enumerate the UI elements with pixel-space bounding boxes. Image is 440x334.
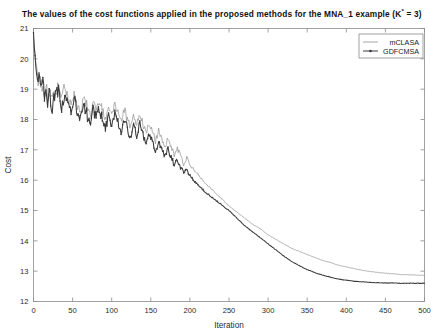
x-tick-label: 150 (144, 306, 157, 315)
y-tick-label: 17 (20, 146, 28, 155)
y-tick-label: 21 (20, 24, 28, 33)
x-tick-label: 300 (262, 306, 275, 315)
x-tick-label: 50 (68, 306, 76, 315)
x-tick-label: 450 (379, 306, 392, 315)
y-tick-label: 16 (20, 176, 28, 185)
legend-marker-gdfcmsa (369, 50, 372, 53)
y-tick-label: 19 (20, 85, 28, 94)
y-tick-label: 13 (20, 267, 28, 276)
y-tick-label: 18 (20, 115, 28, 124)
y-axis-label: Cost (4, 156, 13, 174)
y-tick-label: 20 (20, 55, 28, 64)
series-line-mclasa (34, 38, 425, 276)
x-tick-label: 500 (418, 306, 431, 315)
figure-container: The values of the cost functions applied… (0, 0, 440, 334)
y-tick-label: 12 (20, 297, 28, 306)
x-tick-label: 0 (31, 306, 35, 315)
legend-label-gdfcmsa: GDFCMSA (383, 47, 419, 56)
x-tick-label: 100 (105, 306, 118, 315)
x-axis-label: Iteration (214, 321, 244, 330)
plot-frame (34, 29, 425, 302)
y-tick-label: 14 (20, 237, 28, 246)
x-tick-label: 250 (223, 306, 236, 315)
legend-label-mclasa: mCLASA (389, 38, 419, 47)
x-tick-label: 400 (340, 306, 353, 315)
series-line-gdfcmsa (34, 33, 425, 284)
x-tick-label: 350 (301, 306, 314, 315)
line-chart: 0501001502002503003504004505001213141516… (0, 0, 440, 334)
y-tick-label: 15 (20, 206, 28, 215)
legend[interactable]: mCLASAGDFCMSA (359, 34, 423, 58)
x-tick-label: 200 (184, 306, 197, 315)
